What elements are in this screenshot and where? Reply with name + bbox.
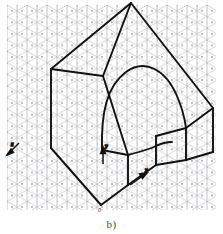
figure-caption: b) — [0, 218, 223, 230]
axis-x-label: x — [144, 167, 148, 173]
axis-y-label: y — [104, 143, 108, 149]
isometric-grid — [7, 5, 216, 210]
isometric-drawing-svg: z y x 0 — [0, 0, 223, 234]
isometric-figure-canvas: z y x 0 — [0, 0, 223, 234]
origin-label: 0 — [98, 207, 101, 213]
